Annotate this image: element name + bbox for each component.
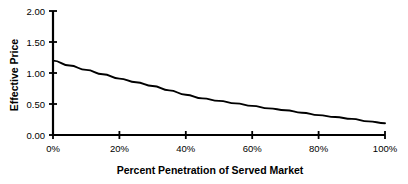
- x-axis-tick-label: 60%: [243, 143, 263, 154]
- x-axis: [53, 131, 385, 139]
- x-axis-tick-label: 0%: [46, 143, 60, 154]
- y-axis-tick-label: 1.50: [27, 37, 46, 48]
- data-series-group: [53, 61, 385, 124]
- x-axis-tick-label: 40%: [176, 143, 196, 154]
- series-line: [53, 61, 385, 124]
- x-axis-title: Percent Penetration of Served Market: [117, 164, 304, 176]
- y-axis: [49, 11, 57, 135]
- x-axis-tick-label: 100%: [373, 143, 398, 154]
- y-axis-tick-labels: 0.000.501.001.502.00: [27, 6, 46, 141]
- y-axis-tick-label: 1.00: [27, 68, 46, 79]
- y-axis-title: Effective Price: [8, 39, 20, 112]
- y-axis-tick-label: 2.00: [27, 6, 46, 17]
- y-axis-tick-label: 0.00: [27, 130, 46, 141]
- chart-container: 0.000.501.001.502.00 0%20%40%60%80%100% …: [0, 0, 408, 184]
- x-axis-tick-label: 20%: [110, 143, 130, 154]
- x-axis-tick-label: 80%: [309, 143, 329, 154]
- chart-plot-area: 0.000.501.001.502.00 0%20%40%60%80%100% …: [0, 0, 408, 184]
- y-axis-tick-label: 0.50: [27, 99, 46, 110]
- x-axis-tick-labels: 0%20%40%60%80%100%: [46, 143, 398, 154]
